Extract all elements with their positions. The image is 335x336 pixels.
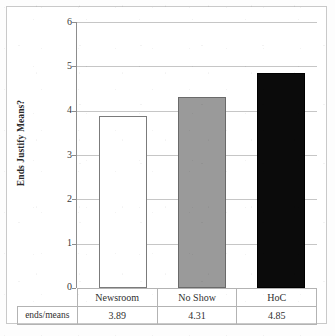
bar-chart: Ends Justify Means? 6 5 4 3 2 1 0 [0, 0, 335, 300]
y-tick-label-4: 4 [50, 104, 72, 115]
table-header-newsroom: Newsroom [77, 289, 157, 307]
y-tick-label-5: 5 [50, 60, 72, 71]
bar-newsroom[interactable] [99, 116, 147, 289]
table-value-hoc: 4.85 [237, 307, 317, 325]
table-header-no-show: No Show [157, 289, 237, 307]
gridline-5 [77, 66, 317, 67]
y-axis-title: Ends Justify Means? [16, 78, 26, 208]
chart-screenshot: Ends Justify Means? 6 5 4 3 2 1 0 [0, 0, 335, 336]
plot-area [76, 22, 317, 288]
y-tick-label-1: 1 [50, 237, 72, 248]
table-header-row: Newsroom No Show HoC [18, 289, 317, 307]
bar-no-show[interactable] [178, 97, 226, 288]
y-tick-label-2: 2 [50, 193, 72, 204]
bar-hoc[interactable] [257, 73, 305, 288]
table-value-newsroom: 3.89 [77, 307, 157, 325]
table-value-no-show: 4.31 [157, 307, 237, 325]
table-corner-cell [18, 289, 78, 307]
y-tick-label-3: 3 [50, 149, 72, 160]
table-row-label: ends/means [18, 307, 78, 325]
table-header-hoc: HoC [237, 289, 317, 307]
gridline-6 [77, 22, 317, 23]
y-tick-label-6: 6 [50, 16, 72, 27]
table-row: ends/means 3.89 4.31 4.85 [18, 307, 317, 325]
data-table: Newsroom No Show HoC ends/means 3.89 4.3… [17, 288, 317, 325]
